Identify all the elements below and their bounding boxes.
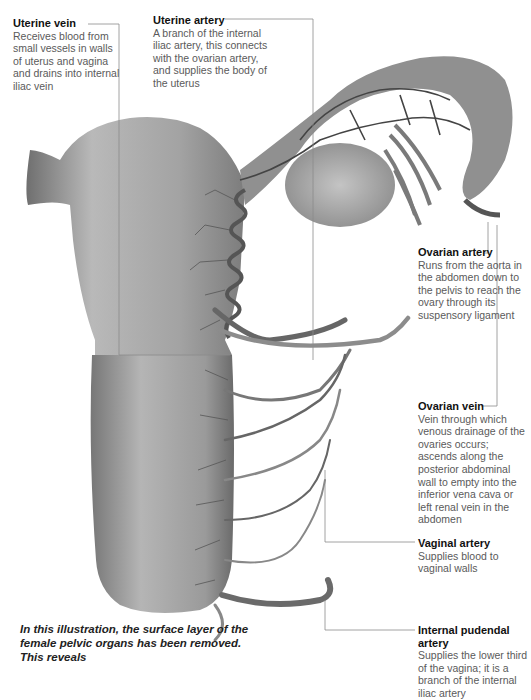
label-uterine-vein: Uterine vein Receives blood from small v… (13, 17, 121, 93)
ovarian-artery-vessel (465, 200, 500, 215)
figure-caption: In this illustration, the surface layer … (20, 622, 260, 664)
label-description: Receives blood from small vessels in wal… (13, 30, 121, 93)
label-internal-pudendal-artery: Internal pudendal artery Supplies the lo… (418, 624, 531, 700)
label-description: Vein through which venous drainage of th… (418, 413, 528, 526)
label-title: Uterine artery (153, 14, 271, 27)
label-title: Vaginal artery (418, 537, 528, 550)
label-ovarian-vein: Ovarian vein Vein through which venous d… (418, 400, 528, 526)
vaginal-vessels (215, 310, 408, 640)
label-title: Ovarian vein (418, 400, 528, 413)
leader-vaginal-artery (325, 470, 415, 542)
label-title: Ovarian artery (418, 246, 528, 259)
label-description: Supplies blood to vaginal walls (418, 550, 528, 575)
leader-internal-pudendal (325, 600, 415, 630)
uterus (26, 117, 245, 355)
label-title: Internal pudendal artery (418, 624, 531, 649)
label-vaginal-artery: Vaginal artery Supplies blood to vaginal… (418, 537, 528, 575)
ovary (285, 143, 395, 227)
vagina (91, 355, 234, 613)
label-description: Runs from the aorta in the abdomen down … (418, 259, 528, 322)
label-description: Supplies the lower third of the vagina; … (418, 649, 531, 699)
label-description: A branch of the internal iliac artery, t… (153, 27, 271, 90)
label-ovarian-artery: Ovarian artery Runs from the aorta in th… (418, 246, 528, 322)
label-uterine-artery: Uterine artery A branch of the internal … (153, 14, 271, 90)
label-title: Uterine vein (13, 17, 121, 30)
